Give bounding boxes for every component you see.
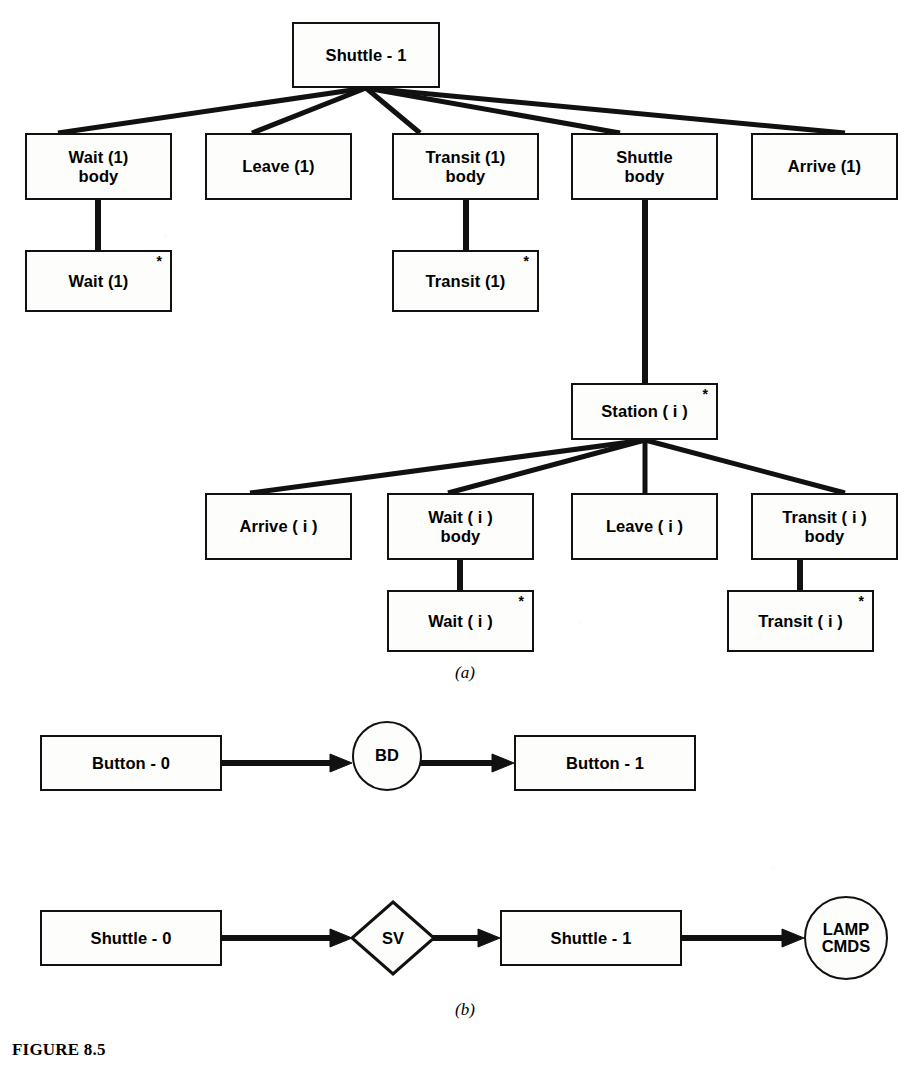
node-button-1[interactable]: Button - 1 (514, 735, 696, 791)
node-label: Transit ( i ) body (778, 508, 871, 545)
star-marker-icon: * (523, 254, 529, 268)
node-label: Shuttle - 0 (87, 929, 176, 947)
arrow-head-shuttle0-sv (330, 929, 352, 947)
node-button-0[interactable]: Button - 0 (40, 735, 222, 791)
arrow-head-bd-button1 (492, 754, 514, 772)
node-label: Wait ( i ) (424, 612, 497, 630)
edge-root-to-wait1body (58, 88, 366, 133)
edge-root-to-arrive1 (366, 88, 845, 133)
node-bd-process[interactable]: BD (352, 721, 422, 791)
node-label: Station ( i ) (597, 402, 692, 420)
node-transit-i-body[interactable]: Transit ( i ) body (751, 493, 898, 560)
edge-root-to-transit1body (366, 88, 420, 133)
node-label: Leave (1) (238, 157, 318, 175)
node-label: Shuttle - 1 (322, 46, 411, 64)
node-label: Wait (1) (65, 272, 133, 290)
node-shuttle-1-root[interactable]: Shuttle - 1 (292, 22, 440, 88)
node-shuttle-1-flow[interactable]: Shuttle - 1 (500, 910, 682, 966)
node-wait-i[interactable]: * Wait ( i ) (387, 590, 534, 652)
node-label: Transit (1) (422, 272, 510, 290)
node-label: Arrive (1) (784, 157, 865, 175)
part-a-caption: (a) (455, 663, 475, 683)
node-label: Wait ( i ) body (424, 508, 497, 545)
edge-station-to-transit-i-body (645, 440, 845, 493)
edge-station-to-wait-i-body (448, 440, 645, 493)
node-label: Transit (1) body (422, 148, 510, 185)
star-marker-icon: * (702, 387, 708, 401)
star-marker-icon: * (518, 594, 524, 608)
node-label: SV (352, 902, 434, 974)
node-label: BD (375, 747, 399, 764)
star-marker-icon: * (858, 594, 864, 608)
node-sv-process[interactable]: SV (352, 902, 434, 974)
node-leave-i[interactable]: Leave ( i ) (571, 493, 718, 560)
node-arrive-1[interactable]: Arrive (1) (751, 133, 898, 200)
node-label: LAMP CMDS (822, 921, 871, 956)
node-label: Arrive ( i ) (235, 517, 321, 535)
node-label: Button - 1 (562, 754, 648, 772)
node-transit-i[interactable]: * Transit ( i ) (727, 590, 874, 652)
node-arrive-i[interactable]: Arrive ( i ) (205, 493, 352, 560)
figure-caption: FIGURE 8.5 (12, 1040, 106, 1060)
node-wait-1[interactable]: * Wait (1) (25, 250, 172, 312)
node-shuttle-body[interactable]: Shuttle body (571, 133, 718, 200)
edge-root-to-shuttlebody (366, 88, 620, 133)
node-transit-1-body[interactable]: Transit (1) body (392, 133, 539, 200)
arrow-head-shuttle1-lamp (782, 929, 804, 947)
figure-8-5: Shuttle - 1 Wait (1) body Leave (1) Tran… (0, 0, 920, 1072)
node-label: Shuttle - 1 (547, 929, 636, 947)
node-label: Shuttle body (612, 148, 677, 185)
part-b-caption: (b) (455, 1000, 475, 1020)
node-station-i[interactable]: * Station ( i ) (571, 383, 718, 440)
node-lamp-cmds[interactable]: LAMP CMDS (804, 896, 888, 980)
node-wait-1-body[interactable]: Wait (1) body (25, 133, 172, 200)
node-transit-1[interactable]: * Transit (1) (392, 250, 539, 312)
arrow-head-button0-bd (330, 754, 352, 772)
arrow-head-sv-shuttle1 (478, 929, 500, 947)
node-label: Leave ( i ) (602, 517, 687, 535)
node-shuttle-0[interactable]: Shuttle - 0 (40, 910, 222, 966)
node-leave-1[interactable]: Leave (1) (205, 133, 352, 200)
node-label: Transit ( i ) (754, 612, 847, 630)
edge-root-to-leave1 (252, 88, 366, 133)
star-marker-icon: * (156, 254, 162, 268)
node-label: Wait (1) body (65, 148, 133, 185)
node-label: Button - 0 (88, 754, 174, 772)
node-wait-i-body[interactable]: Wait ( i ) body (387, 493, 534, 560)
edge-station-to-arrive-i (250, 440, 645, 493)
